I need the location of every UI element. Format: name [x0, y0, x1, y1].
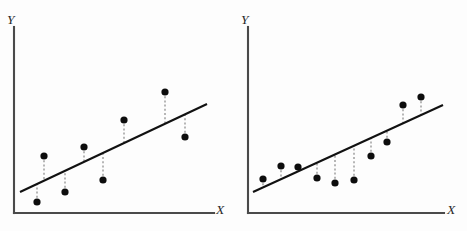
figure-root: Y X: [0, 0, 467, 231]
data-point: [331, 179, 338, 186]
data-point: [40, 152, 47, 159]
data-point: [120, 116, 127, 123]
left-panel-residuals: [37, 92, 185, 202]
data-point: [161, 88, 168, 95]
data-point: [417, 93, 424, 100]
right-panel-residuals: [263, 97, 421, 188]
data-point: [313, 174, 320, 181]
data-point: [294, 163, 301, 170]
right-panel-svg: Y X: [233, 0, 466, 231]
x-axis-label: X: [446, 202, 456, 217]
right-panel-points: [259, 93, 424, 186]
data-point: [383, 138, 390, 145]
y-axis-label: Y: [241, 12, 250, 27]
regression-line: [20, 104, 207, 192]
data-point: [399, 101, 406, 108]
data-point: [33, 198, 40, 205]
data-point: [61, 188, 68, 195]
y-axis-label: Y: [7, 12, 16, 27]
data-point: [80, 143, 87, 150]
data-point: [367, 152, 374, 159]
data-point: [181, 133, 188, 140]
data-point: [277, 162, 284, 169]
right-panel-axes: [248, 27, 444, 213]
data-point: [99, 176, 106, 183]
left-panel-axes: [14, 27, 214, 213]
x-axis-label: X: [215, 202, 225, 217]
scatter-panel-right: Y X: [233, 0, 466, 231]
data-point: [259, 175, 266, 182]
data-point: [350, 176, 357, 183]
regression-line: [253, 105, 443, 192]
left-panel-svg: Y X: [0, 0, 233, 231]
scatter-panel-left: Y X: [0, 0, 233, 231]
